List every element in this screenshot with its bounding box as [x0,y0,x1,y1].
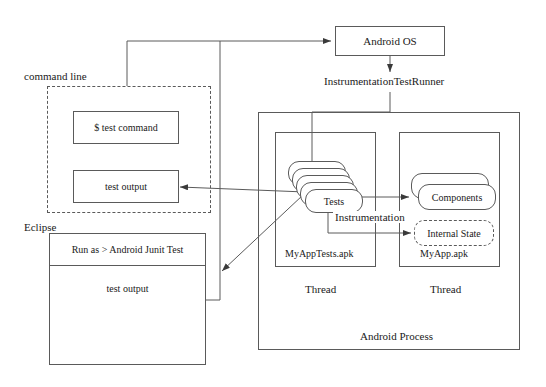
components-card[interactable]: Components [418,184,496,210]
myapptests-apk-label: MyAppTests.apk [283,248,355,259]
eclipse-group-label: Eclipse [22,221,58,233]
components-label: Components [419,185,495,209]
tests-thread-label: Thread [303,283,338,295]
diagram-canvas: Android OS InstrumentationTestRunner com… [0,0,546,387]
command-line-group-label: command line [22,70,89,82]
eclipse-test-output-label: test output [50,266,205,311]
myapp-apk-label: MyApp.apk [418,248,470,259]
app-thread-label: Thread [428,283,463,295]
eclipse-window[interactable]: Run as > Android Junit Test test output [49,233,206,365]
tests-card[interactable]: Tests [305,189,363,213]
android-process-label: Android Process [358,330,435,342]
cli-test-output-box[interactable]: test output [73,170,179,203]
eclipse-menu-label[interactable]: Run as > Android Junit Test [50,234,205,265]
test-command-label: $ test command [74,112,178,143]
internal-state-label: Internal State [415,221,493,245]
instrumentation-edge-label: Instrumentation [333,211,407,223]
test-command-box[interactable]: $ test command [73,111,179,144]
android-os-box[interactable]: Android OS [335,26,445,56]
instrumentation-test-runner-label: InstrumentationTestRunner [322,75,446,87]
cli-test-output-label: test output [74,171,178,202]
tests-label: Tests [306,190,362,212]
android-os-label: Android OS [336,27,444,55]
internal-state-card: Internal State [414,220,494,246]
